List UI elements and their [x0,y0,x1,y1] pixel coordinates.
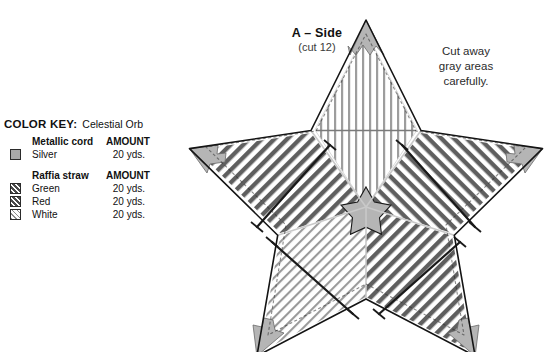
swatch-green-icon [10,183,21,194]
key-color-label: Green [32,182,99,195]
pattern-page: COLOR KEY: Celestial Orb Metallic cord A… [0,0,559,355]
swatch-white-icon [10,209,21,220]
key-group-spacer [32,161,176,168]
key-color-label: Silver [32,148,99,161]
key-row-silver: Silver 20 yds. [32,148,176,161]
key-amount-header: AMOUNT [106,136,176,147]
color-key-table: Metallic cord AMOUNT Silver 20 yds. Raff… [32,136,176,221]
key-color-label: Red [32,195,99,208]
key-amount-value: 20 yds. [99,208,176,221]
swatch-silver-icon [10,149,21,160]
key-amount-value: 20 yds. [99,182,176,195]
swatch-red-icon [10,196,21,207]
key-group-name: Raffia straw [32,170,106,181]
color-key-panel: COLOR KEY: Celestial Orb Metallic cord A… [4,118,176,221]
key-amount-value: 20 yds. [99,148,176,161]
key-color-label: White [32,208,99,221]
key-amount-header: AMOUNT [106,170,176,181]
color-key-product-name: Celestial Orb [82,118,143,130]
key-group-name: Metallic cord [32,136,106,147]
key-amount-value: 20 yds. [99,195,176,208]
key-group-header-metallic: Metallic cord AMOUNT [32,136,176,147]
color-key-heading: COLOR KEY: Celestial Orb [4,118,176,130]
color-key-title: COLOR KEY: [4,118,77,130]
key-row-red: Red 20 yds. [32,195,176,208]
key-group-header-raffia: Raffia straw AMOUNT [32,170,176,181]
star-diagram-svg [180,14,552,352]
key-row-green: Green 20 yds. [32,182,176,195]
star-diagram [180,14,552,352]
key-row-white: White 20 yds. [32,208,176,221]
